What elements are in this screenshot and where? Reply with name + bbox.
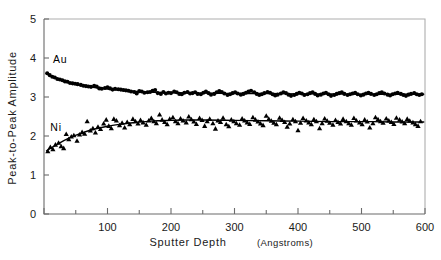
series-Ni <box>45 112 424 153</box>
data-point <box>104 117 109 122</box>
data-point <box>295 128 300 133</box>
scatter-plot-canvas: 012345100200300400500600 AuNi Peak-to-Pe… <box>0 0 441 260</box>
series-label-Ni: Ni <box>50 121 62 133</box>
x-tick-label: 500 <box>352 221 370 233</box>
series-annotations: AuNi <box>50 53 67 133</box>
y-tick-label: 4 <box>30 52 36 64</box>
data-point <box>317 126 322 131</box>
data-point <box>186 114 191 119</box>
x-tick-label: 200 <box>162 221 180 233</box>
data-series <box>45 71 424 153</box>
x-axis-title: Sputter Depth <box>150 236 227 248</box>
data-point <box>264 113 269 118</box>
data-point <box>93 130 98 135</box>
series-label-Au: Au <box>53 53 67 65</box>
data-point <box>64 132 69 137</box>
data-point <box>213 126 218 131</box>
axes <box>44 19 425 214</box>
data-point <box>85 119 90 124</box>
data-point <box>367 125 372 130</box>
y-tick-label: 3 <box>30 91 36 103</box>
data-point <box>220 115 225 120</box>
data-point <box>300 116 305 121</box>
chart-figure: 012345100200300400500600 AuNi Peak-to-Pe… <box>0 0 441 260</box>
x-tick-label: 400 <box>289 221 307 233</box>
data-point <box>74 138 79 143</box>
x-tick-label: 100 <box>98 221 116 233</box>
tick-marks <box>44 19 425 214</box>
y-tick-label: 0 <box>30 208 36 220</box>
data-point <box>340 116 345 121</box>
x-tick-label: 300 <box>225 221 243 233</box>
y-tick-label: 1 <box>30 169 36 181</box>
data-point <box>202 123 207 128</box>
y-tick-label: 2 <box>30 130 36 142</box>
series-Au <box>45 71 424 98</box>
data-point <box>149 116 154 121</box>
data-point <box>101 121 106 126</box>
y-axis-title: Peak-to-Peak Amplitude <box>6 51 18 184</box>
x-axis-unit: (Angstroms) <box>257 237 313 248</box>
y-tick-label: 5 <box>30 13 36 25</box>
data-point <box>210 121 215 126</box>
data-point <box>394 115 399 120</box>
data-point <box>157 112 162 117</box>
x-tick-label: 600 <box>416 221 434 233</box>
data-point <box>122 125 127 130</box>
data-point <box>170 115 175 120</box>
